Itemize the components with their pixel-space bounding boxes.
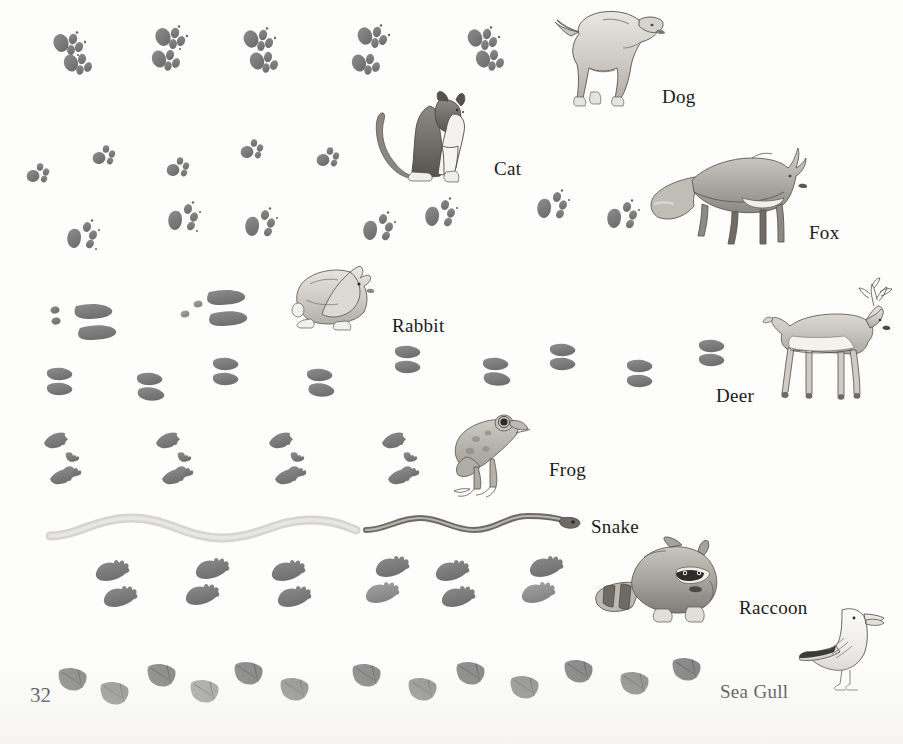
cat-track-print <box>236 134 270 166</box>
fox-illustration <box>646 140 811 250</box>
snake-illustration <box>364 508 586 542</box>
cat-track-print <box>162 152 196 184</box>
label-cat: Cat <box>494 158 521 180</box>
fox-track-print <box>358 210 398 250</box>
rabbit-illustration <box>286 262 386 334</box>
deer-track-print <box>622 352 662 394</box>
label-seagull: Sea Gull <box>720 681 788 703</box>
fox-track-print <box>602 198 642 238</box>
deer-track-print <box>42 360 82 402</box>
raccoon-track-print <box>92 557 140 617</box>
seagull-illustration <box>798 600 898 700</box>
raccoon-track-print <box>432 557 480 617</box>
dog-track-print <box>150 22 196 74</box>
cat-track-print <box>88 140 122 172</box>
dog-track-print <box>48 28 94 80</box>
cat-illustration <box>368 86 486 186</box>
dog-track-print <box>462 24 510 76</box>
seagull-track-print <box>230 656 272 696</box>
label-fox: Fox <box>809 222 839 244</box>
raccoon-track-print <box>366 553 414 613</box>
seagull-track-print <box>348 658 390 698</box>
seagull-track-print <box>96 676 138 716</box>
animal-tracks-page: Dog <box>0 0 903 744</box>
deer-track-print <box>208 350 248 392</box>
seagull-track-print <box>54 662 96 702</box>
fox-track-print <box>420 196 460 236</box>
seagull-track-print <box>668 652 710 692</box>
page-number: 32 <box>30 683 51 708</box>
fox-track-print <box>62 218 102 258</box>
frog-track-print <box>378 425 438 495</box>
raccoon-track-print <box>268 557 316 617</box>
fox-track-print <box>240 206 280 246</box>
deer-track-print <box>545 338 585 380</box>
seagull-track-print <box>452 656 494 696</box>
cat-track-print <box>312 142 346 174</box>
dog-track-print <box>352 22 398 78</box>
dog-illustration <box>545 2 675 114</box>
label-frog: Frog <box>549 459 586 481</box>
snake-trail <box>48 508 358 548</box>
label-dog: Dog <box>662 86 696 108</box>
frog-track-print <box>265 425 325 495</box>
seagull-track-print <box>276 672 318 712</box>
deer-illustration <box>756 276 896 406</box>
deer-track-print <box>694 334 734 376</box>
cat-track-print <box>22 158 56 190</box>
frog-track-print <box>152 425 212 495</box>
seagull-track-print <box>506 670 548 710</box>
deer-track-print <box>390 338 430 380</box>
deer-track-print <box>302 362 342 404</box>
fox-track-print <box>532 188 572 228</box>
fox-track-print <box>163 200 203 240</box>
seagull-track-print <box>186 674 228 714</box>
raccoon-illustration <box>592 535 742 625</box>
frog-track-print <box>40 425 100 495</box>
seagull-track-print <box>560 654 602 694</box>
raccoon-track-print <box>522 553 570 613</box>
label-rabbit: Rabbit <box>392 315 444 337</box>
raccoon-track-print <box>186 555 234 615</box>
dog-track-print <box>238 24 286 78</box>
deer-track-print <box>132 365 172 407</box>
deer-track-print <box>478 352 518 394</box>
seagull-track-print <box>616 666 658 706</box>
rabbit-track-print <box>175 284 253 352</box>
label-deer: Deer <box>716 385 754 407</box>
frog-illustration <box>448 405 546 497</box>
seagull-track-print <box>404 672 446 712</box>
seagull-track-print <box>143 658 185 698</box>
rabbit-track-print <box>46 288 124 356</box>
